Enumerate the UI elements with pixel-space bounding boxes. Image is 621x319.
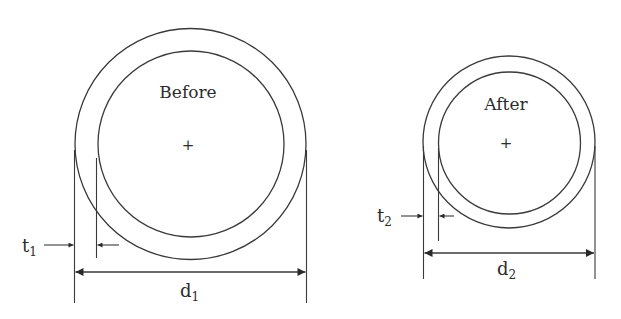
before-diameter-label: d1: [180, 280, 199, 304]
before-thickness-label: t1: [22, 235, 37, 259]
before-center-mark: +: [182, 136, 195, 154]
before-label: Before: [159, 82, 216, 102]
after-tube: After + t2 d2: [377, 56, 595, 282]
tube-diagram: Before + t1 d1 After + t2: [0, 0, 621, 319]
after-center-mark: +: [500, 134, 513, 152]
after-thickness-label: t2: [377, 205, 392, 229]
before-tube: Before + t1 d1: [22, 29, 307, 305]
after-diameter-label: d2: [497, 258, 516, 282]
after-label: After: [483, 94, 528, 114]
